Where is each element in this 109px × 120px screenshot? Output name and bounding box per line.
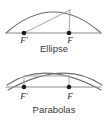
- ellipse-ray-from-right-focus: [69, 10, 70, 33]
- conic-sections-figure: F' F Ellipse F' F Parabolas: [0, 0, 109, 120]
- ellipse-panel: F' F Ellipse: [6, 10, 101, 54]
- ellipse-focus-left-label: F': [19, 35, 28, 45]
- parabolas-focus-right-label: F: [66, 91, 73, 101]
- parabolas-focus-left-dot: [22, 85, 27, 90]
- parabolas-panel: F' F Parabolas: [6, 73, 102, 115]
- parabolas-focus-left-label: F': [19, 91, 28, 101]
- figure-canvas: F' F Ellipse F' F Parabolas: [0, 0, 109, 120]
- ellipse-ray-from-left-focus: [24, 10, 70, 33]
- parabolas-focus-right-dot: [67, 85, 72, 90]
- ellipse-caption: Ellipse: [40, 43, 68, 54]
- parabolas-caption: Parabolas: [33, 104, 76, 115]
- ellipse-arc-curve: [6, 12, 101, 33]
